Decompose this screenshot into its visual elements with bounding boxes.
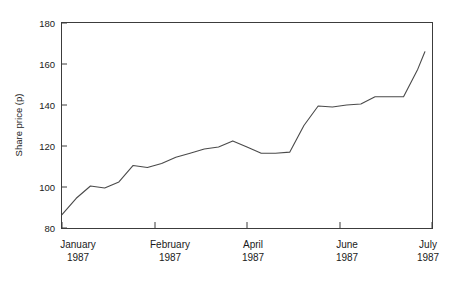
y-tick-label-80: 80: [44, 223, 55, 234]
x-label-january-year: 1987: [67, 252, 90, 263]
y-tick-label-140: 140: [39, 100, 55, 111]
x-label-february-year: 1987: [159, 252, 182, 263]
chart-canvas: 180 160 140 120 100 80 Share price (p) J…: [0, 0, 453, 281]
share-price-chart: 180 160 140 120 100 80 Share price (p) J…: [0, 0, 453, 281]
y-tick-label-120: 120: [39, 141, 55, 152]
x-label-april-year: 1987: [242, 252, 265, 263]
y-tick-label-180: 180: [39, 18, 55, 29]
y-tick-label-160: 160: [39, 59, 55, 70]
x-label-april-month: April: [243, 239, 263, 250]
x-label-june-month: June: [336, 239, 358, 250]
y-tick-label-100: 100: [39, 182, 55, 193]
x-label-february-month: February: [150, 239, 190, 250]
x-label-june-year: 1987: [336, 252, 359, 263]
x-label-january-month: January: [60, 239, 96, 250]
x-label-july-month: July: [419, 239, 437, 250]
y-axis-title: Share price (p): [13, 94, 24, 157]
x-label-july-year: 1987: [417, 252, 440, 263]
